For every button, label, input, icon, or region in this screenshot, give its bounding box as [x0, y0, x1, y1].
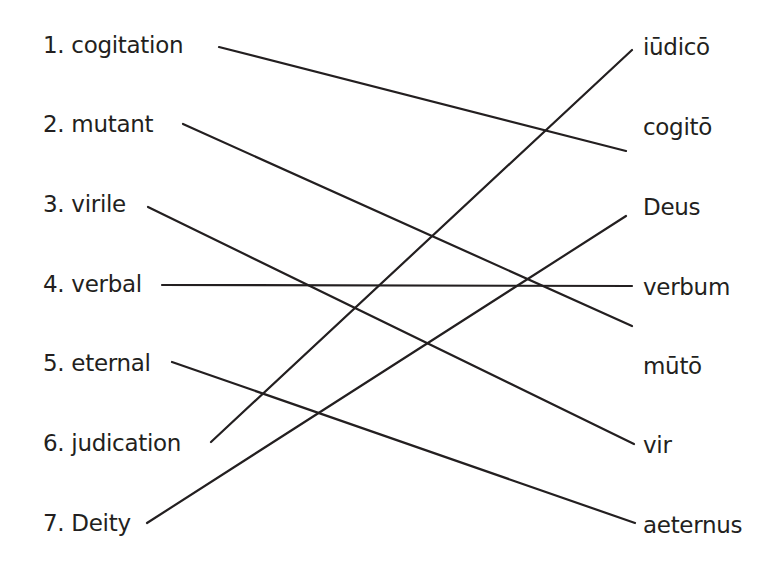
match-line-mutant-muto — [183, 124, 632, 326]
left-word-4: 4. verbal — [43, 270, 142, 298]
match-line-verbal-verbum — [162, 285, 632, 286]
right-word-3: Deus — [643, 193, 700, 221]
left-word-1: 1. cogitation — [43, 31, 183, 59]
left-word-5: 5. eternal — [43, 349, 151, 377]
right-word-7: aeternus — [643, 511, 742, 539]
match-line-cogitation-cogito — [219, 47, 626, 151]
right-word-4: verbum — [643, 273, 730, 301]
right-word-5: mūtō — [643, 352, 702, 380]
right-word-2: cogitō — [643, 113, 712, 141]
match-line-deity-deus — [147, 216, 626, 523]
match-line-judication-iudico — [211, 50, 632, 442]
match-line-virile-vir — [148, 207, 634, 444]
left-word-6: 6. judication — [43, 429, 181, 457]
match-line-eternal-aeternus — [172, 362, 635, 523]
left-word-3: 3. virile — [43, 190, 126, 218]
right-word-1: iūdicō — [643, 33, 710, 61]
left-word-7: 7. Deity — [43, 509, 131, 537]
left-word-2: 2. mutant — [43, 110, 153, 138]
right-word-6: vir — [643, 431, 672, 459]
